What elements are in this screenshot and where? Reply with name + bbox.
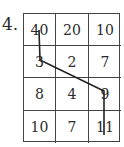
grid-cell-r3c0: 10 bbox=[24, 111, 56, 143]
grid-cell-r0c2: 10 bbox=[89, 14, 121, 46]
grid-cell-r2c2: 9 bbox=[89, 78, 121, 111]
number-grid: 40 20 10 3 2 7 8 4 9 10 7 11 bbox=[23, 13, 120, 142]
grid-cell-r1c2: 7 bbox=[89, 46, 121, 78]
grid-cell-r3c2: 11 bbox=[89, 111, 121, 143]
grid-cell-r3c1: 7 bbox=[56, 111, 89, 143]
problem-number: 4. bbox=[2, 14, 18, 34]
grid-cell-r1c0: 3 bbox=[24, 46, 56, 78]
grid-cell-r2c0: 8 bbox=[24, 78, 56, 111]
grid-cell-r1c1: 2 bbox=[56, 46, 89, 78]
grid-cell-r0c0: 40 bbox=[24, 14, 56, 46]
grid-cell-r2c1: 4 bbox=[56, 78, 89, 111]
grid-cell-r0c1: 20 bbox=[56, 14, 89, 46]
